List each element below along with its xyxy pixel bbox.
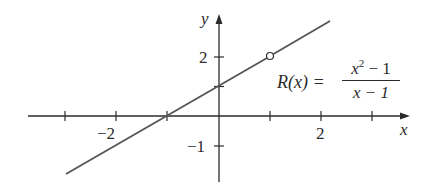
x-tick-label-2: 2: [316, 125, 325, 142]
numerator-rest: − 1: [364, 59, 391, 78]
fraction-numerator: x2 − 1: [342, 60, 400, 77]
fraction-bar: [342, 80, 400, 81]
fraction-denominator: x − 1: [342, 84, 400, 101]
numerator-base: x: [351, 59, 359, 78]
function-fraction: x2 − 1 x − 1: [342, 60, 400, 101]
x-axis-label: x: [400, 121, 408, 138]
chart-figure: y x −2 2 2 −1 R(x) = x2 − 1 x − 1: [0, 0, 441, 186]
y-axis-label: y: [201, 10, 209, 27]
y-tick-label-2: 2: [199, 49, 208, 66]
y-axis-arrow-icon: [216, 14, 223, 24]
y-tick-label-neg1: −1: [187, 138, 205, 155]
y-axis: [214, 14, 224, 182]
function-lhs: R(x) =: [277, 73, 325, 91]
numerator-exponent: 2: [359, 57, 365, 69]
open-circle-hole: [267, 53, 274, 60]
x-tick-label-neg2: −2: [97, 125, 115, 142]
function-lhs-text: R(x) =: [277, 72, 325, 92]
x-axis-arrow-icon: [400, 113, 410, 120]
